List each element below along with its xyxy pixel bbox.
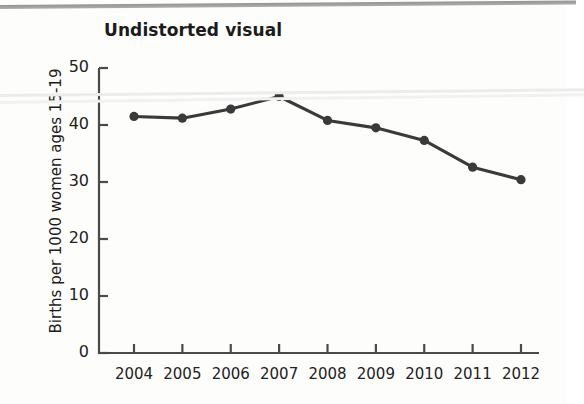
data-line [134,97,521,180]
y-tick-label: 40 [55,114,89,133]
data-point [129,112,138,121]
data-markers [129,92,525,184]
data-point [420,136,429,145]
y-tick-label: 0 [55,342,89,361]
y-tick-label: 30 [55,171,89,190]
x-tick-label: 2012 [492,365,550,383]
data-point [178,114,187,123]
data-point [226,104,235,113]
data-point [323,116,332,125]
data-point [468,163,477,172]
x-tick-marks [134,344,521,353]
y-tick-label: 50 [55,57,89,76]
y-tick-label: 20 [55,228,89,247]
y-tick-label: 10 [55,285,89,304]
data-point [371,123,380,132]
data-point [516,175,525,184]
y-tick-marks [99,68,108,353]
